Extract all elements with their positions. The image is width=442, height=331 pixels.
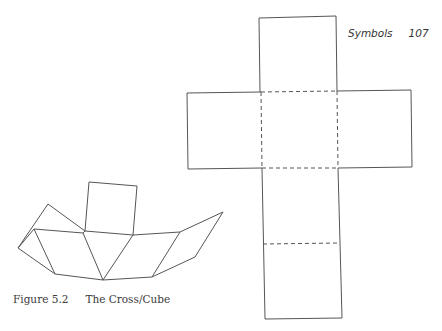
cross-lower-column — [262, 168, 342, 319]
figure-title: The Cross/Cube — [85, 293, 170, 305]
folded-top-face — [85, 182, 137, 235]
cross-right-face — [337, 90, 412, 168]
figure-drawing — [0, 0, 442, 331]
figure-label: Figure 5.2 — [13, 293, 68, 305]
book-page: Symbols107 Figure 5.2The Cross/Cube — [0, 0, 442, 331]
section-title: Symbols — [348, 27, 393, 39]
folded-cube-view — [18, 182, 223, 280]
page-number: 107 — [409, 27, 429, 39]
cross-net — [187, 16, 412, 319]
fold-lines — [261, 91, 340, 244]
running-head: Symbols107 — [348, 27, 429, 39]
figure-caption: Figure 5.2The Cross/Cube — [13, 293, 170, 305]
folded-left-flap — [18, 229, 55, 274]
cross-left-face — [187, 92, 262, 169]
cross-top-face — [259, 16, 337, 92]
